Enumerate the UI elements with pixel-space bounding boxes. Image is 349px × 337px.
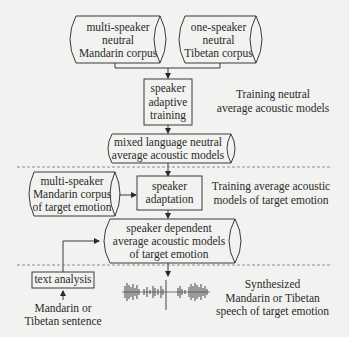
text-line: models of target emotion xyxy=(206,194,336,208)
text-line: one-speaker xyxy=(181,21,256,34)
text-line: Training average acoustic xyxy=(206,180,336,194)
speech-waveform-icon xyxy=(122,280,210,310)
text-line: neutral xyxy=(181,34,256,47)
text-line: multi-speaker xyxy=(28,175,116,188)
text-line: speaker dependent xyxy=(106,222,232,235)
text-line: Synthesized xyxy=(210,278,335,292)
label-speaker-dependent-models: speaker dependent average acoustic model… xyxy=(106,222,232,261)
label-speaker-adaptive-training: speaker adaptive training xyxy=(144,82,192,123)
label-mandarin-emotion-corpus: multi-speaker Mandarin corpus of target … xyxy=(28,175,116,214)
text-line: Mandarin or Tibetan xyxy=(210,292,335,306)
label-speaker-adaptation: speaker adaptation xyxy=(137,180,202,206)
text-line: speaker xyxy=(137,180,202,193)
text-line: multi-speaker xyxy=(76,21,160,34)
text-line: speech of target emotion xyxy=(210,305,335,319)
text-line: of target emotion xyxy=(106,248,232,261)
description-synthesized-speech: Synthesized Mandarin or Tibetan speech o… xyxy=(210,278,335,319)
merge-connector xyxy=(115,63,220,68)
text-line: mixed language neutral xyxy=(108,136,228,149)
arrow xyxy=(63,241,99,272)
description-stage2: Training average acoustic models of targ… xyxy=(206,180,336,207)
text-line: Mandarin corpus xyxy=(28,188,116,201)
text-line: adaptive xyxy=(144,96,192,110)
text-line: average acoustic models xyxy=(108,149,228,162)
text-line: training xyxy=(144,109,192,123)
label-mandarin-neutral-corpus: multi-speaker neutral Mandarin corpus xyxy=(76,21,160,60)
text-line: average acoustic models xyxy=(210,102,336,116)
text-line: Tibetan corpus xyxy=(181,47,256,60)
label-text-analysis: text analysis xyxy=(32,273,94,286)
text-line: Mandarin corpus xyxy=(76,47,160,60)
label-mixed-language-models: mixed language neutral average acoustic … xyxy=(108,136,228,162)
text-line: Tibetan sentence xyxy=(14,315,112,328)
text-line: adaptation xyxy=(137,193,202,206)
text-line: of target emotion xyxy=(28,201,116,214)
text-line: average acoustic models xyxy=(106,235,232,248)
text-line: Training neutral xyxy=(210,88,336,102)
label-tibetan-neutral-corpus: one-speaker neutral Tibetan corpus xyxy=(181,21,256,60)
description-stage1: Training neutral average acoustic models xyxy=(210,88,336,115)
text-line: neutral xyxy=(76,34,160,47)
label-input-sentence: Mandarin or Tibetan sentence xyxy=(14,302,112,328)
text-line: speaker xyxy=(144,82,192,96)
text-line: Mandarin or xyxy=(14,302,112,315)
